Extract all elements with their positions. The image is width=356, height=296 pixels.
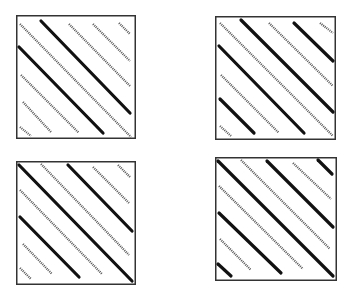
hatched-square-bottom-left bbox=[16, 161, 136, 285]
square-frame bbox=[17, 16, 136, 139]
hatch-svg bbox=[16, 161, 136, 285]
hatched-square-top-right bbox=[215, 16, 336, 140]
hatch-svg bbox=[215, 157, 337, 281]
hatched-square-bottom-right bbox=[215, 157, 337, 281]
hatch-svg bbox=[215, 16, 336, 140]
hatch-svg bbox=[16, 15, 136, 139]
hatched-square-top-left bbox=[16, 15, 136, 139]
